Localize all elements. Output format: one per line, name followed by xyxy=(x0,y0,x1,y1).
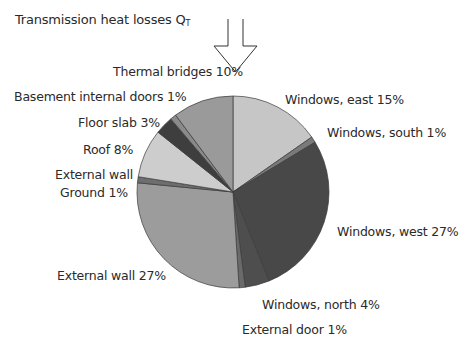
pie-slices xyxy=(137,96,329,288)
label-external-wall-ground-line1: External wall xyxy=(55,168,133,182)
label-roof: Roof 8% xyxy=(83,143,133,157)
label-external-wall: External wall 27% xyxy=(57,269,166,283)
label-basement-doors: Basement internal doors 1% xyxy=(14,90,187,104)
label-windows-south: Windows, south 1% xyxy=(327,126,446,140)
label-thermal-bridges: Thermal bridges 10% xyxy=(113,65,243,79)
label-external-door: External door 1% xyxy=(242,323,347,337)
label-windows-north: Windows, north 4% xyxy=(262,298,380,312)
label-windows-east: Windows, east 15% xyxy=(285,93,404,107)
label-external-wall-ground-line2: Ground 1% xyxy=(60,186,128,200)
label-windows-west: Windows, west 27% xyxy=(337,225,458,239)
label-floor-slab: Floor slab 3% xyxy=(78,116,160,130)
